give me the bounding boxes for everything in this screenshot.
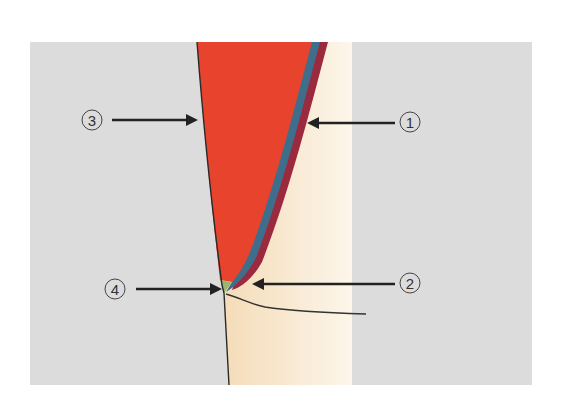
svg-text:2: 2 — [406, 275, 414, 292]
diagram: 3 1 2 4 — [0, 0, 567, 413]
svg-text:1: 1 — [406, 114, 414, 131]
svg-text:4: 4 — [111, 281, 119, 298]
svg-text:3: 3 — [88, 112, 96, 129]
